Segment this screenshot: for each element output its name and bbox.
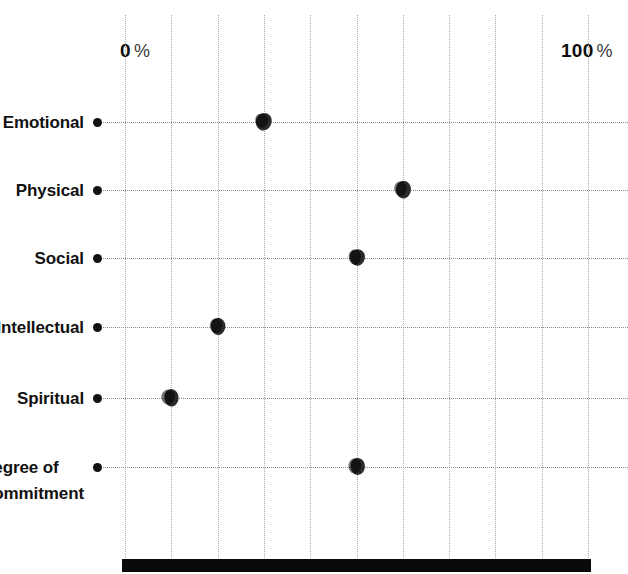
gridline-vertical <box>542 15 543 558</box>
category-label: Degree of Commitment <box>0 455 84 508</box>
category-bullet <box>93 118 102 127</box>
data-point-marker <box>393 178 413 202</box>
category-bullet <box>93 323 102 332</box>
gridline-vertical <box>218 15 219 558</box>
gridline-vertical <box>403 15 404 558</box>
row-connector-line <box>103 327 628 328</box>
category-bullet <box>93 254 102 263</box>
gridline-vertical <box>495 15 496 558</box>
row-connector-line <box>103 122 628 123</box>
data-point-marker <box>161 386 181 410</box>
gridline-vertical <box>588 15 589 558</box>
category-label: Spiritual <box>17 386 84 412</box>
data-point-marker <box>347 246 367 270</box>
gridline-vertical <box>125 15 126 558</box>
category-bullet <box>93 463 102 472</box>
gridline-vertical <box>264 15 265 558</box>
gridline-vertical <box>310 15 311 558</box>
category-label: Emotional <box>3 110 84 136</box>
category-bullet <box>93 394 102 403</box>
data-point-marker <box>347 455 367 479</box>
dot-plot-chart: 0% 100% EmotionalPhysicalSocialIntellect… <box>0 0 628 574</box>
baseline-bar <box>122 559 591 572</box>
gridline-vertical <box>449 15 450 558</box>
category-label: Social <box>35 246 84 272</box>
data-point-marker <box>208 315 228 339</box>
gridline-vertical <box>171 15 172 558</box>
plot-area: EmotionalPhysicalSocialIntellectualSpiri… <box>0 0 628 574</box>
category-label: Intellectual <box>0 315 84 341</box>
category-bullet <box>93 186 102 195</box>
row-connector-line <box>103 398 628 399</box>
row-connector-line <box>103 190 628 191</box>
category-label: Physical <box>16 178 84 204</box>
data-point-marker <box>254 110 274 134</box>
